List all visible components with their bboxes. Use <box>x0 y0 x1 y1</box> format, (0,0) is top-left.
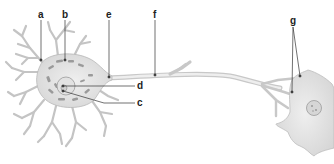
label-f: f <box>153 10 156 20</box>
target-cell-nucleus <box>307 101 322 116</box>
neuron-diagram: a b e f d c g <box>0 0 334 164</box>
label-g: g <box>290 16 296 26</box>
neuron-illustration <box>0 0 334 164</box>
target-cell <box>276 70 334 156</box>
label-b: b <box>62 10 68 20</box>
label-d: d <box>137 81 143 91</box>
label-c: c <box>137 98 143 108</box>
label-e: e <box>106 10 112 20</box>
label-a: a <box>38 10 44 20</box>
cell-body <box>37 54 112 108</box>
